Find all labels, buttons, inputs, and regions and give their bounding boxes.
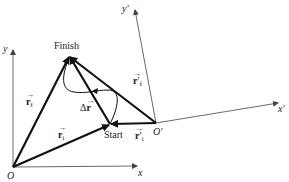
- r-i-label: →ri: [58, 130, 64, 142]
- y-axis-label: y: [3, 44, 7, 54]
- y-prime-axis: [135, 10, 156, 123]
- origin-prime-label: O′: [153, 127, 162, 137]
- vector-r-i-prime: [111, 123, 156, 124]
- x-axis-label: x: [138, 168, 142, 178]
- r-i-prime-label: →r′i: [135, 131, 144, 143]
- delta-r-label: Δ→r: [80, 103, 91, 113]
- x-prime-axis-label: x′: [278, 104, 285, 114]
- r-f-prime-label: →r′f: [133, 76, 142, 88]
- start-label: Start: [104, 130, 123, 140]
- origin-label: O: [7, 171, 14, 181]
- trajectory-arrow: [92, 88, 98, 94]
- finish-label: Finish: [54, 41, 79, 51]
- diagram-canvas: [0, 0, 289, 182]
- x-prime-axis: [156, 103, 278, 123]
- r-f-label: →rf: [26, 97, 33, 109]
- vector-r-f: [13, 57, 69, 167]
- vector-r-f-prime: [70, 57, 156, 123]
- y-prime-axis-label: y′: [122, 4, 129, 14]
- x-axis: [13, 166, 137, 167]
